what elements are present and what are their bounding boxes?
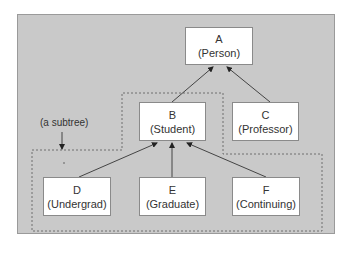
node-e-graduate: E (Graduate) (139, 177, 206, 216)
node-d-letter: D (73, 183, 81, 197)
subtree-annotation-label: (a subtree) (40, 117, 88, 128)
node-c-professor: C (Professor) (232, 102, 299, 141)
edge-c-to-a (227, 67, 270, 102)
node-e-name: (Graduate) (146, 197, 199, 211)
edge-d-to-b (79, 143, 157, 177)
node-b-name: (Student) (150, 122, 195, 136)
node-f-continuing: F (Continuing) (232, 177, 300, 216)
edge-b-to-a (172, 67, 213, 102)
node-c-name: (Professor) (238, 122, 292, 136)
node-b-student: B (Student) (139, 102, 206, 141)
node-c-letter: C (262, 108, 270, 122)
node-a-person: A (Person) (185, 27, 253, 65)
node-b-letter: B (169, 108, 176, 122)
node-a-letter: A (215, 32, 222, 46)
node-f-name: (Continuing) (236, 197, 296, 211)
node-a-name: (Person) (198, 46, 240, 60)
node-e-letter: E (169, 183, 176, 197)
node-d-name: (Undergrad) (47, 197, 106, 211)
edge-f-to-b (187, 143, 266, 177)
stray-dot (63, 162, 65, 164)
node-f-letter: F (263, 183, 270, 197)
node-d-undergrad: D (Undergrad) (43, 177, 111, 216)
